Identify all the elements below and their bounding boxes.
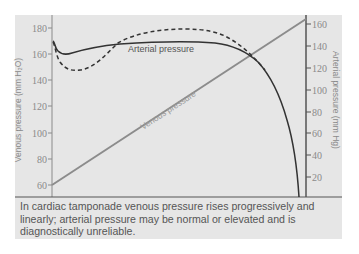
svg-text:120: 120 bbox=[32, 101, 47, 112]
svg-text:160: 160 bbox=[312, 19, 327, 30]
svg-text:120: 120 bbox=[312, 63, 327, 74]
svg-text:160: 160 bbox=[32, 49, 47, 60]
svg-text:100: 100 bbox=[312, 85, 327, 96]
svg-text:140: 140 bbox=[32, 75, 47, 86]
arterial-pressure-label: Arterial pressure bbox=[128, 44, 194, 54]
svg-text:40: 40 bbox=[312, 150, 322, 161]
arterial-pressure-line bbox=[53, 41, 299, 197]
svg-text:60: 60 bbox=[37, 180, 47, 191]
right-axis-ticks: 160 140 120 100 80 60 40 20 bbox=[306, 19, 327, 183]
svg-text:20: 20 bbox=[312, 172, 322, 183]
venous-pressure-label: Venous pressure bbox=[139, 88, 198, 131]
svg-text:140: 140 bbox=[312, 41, 327, 52]
right-axis-title: Arterial pressure (mm Hg) bbox=[331, 51, 341, 149]
left-axis-ticks: 180 160 140 120 100 80 60 bbox=[32, 23, 52, 191]
left-axis-title: Venous pressure (mm H₂O) bbox=[13, 58, 23, 163]
svg-text:80: 80 bbox=[37, 154, 47, 165]
svg-text:100: 100 bbox=[32, 128, 47, 139]
svg-text:60: 60 bbox=[312, 128, 322, 139]
svg-text:80: 80 bbox=[312, 107, 322, 118]
svg-text:180: 180 bbox=[32, 23, 47, 34]
figure-caption: In cardiac tamponade venous pressure ris… bbox=[20, 200, 340, 238]
